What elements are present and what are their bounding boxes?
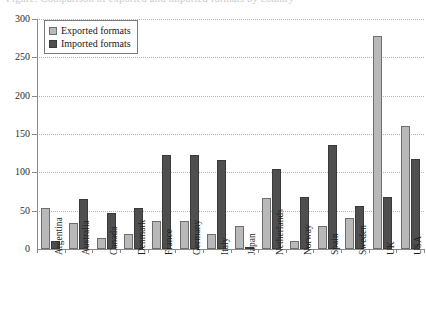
x-label-japan: Japan [248, 233, 258, 255]
bar-italy-exported [207, 234, 216, 249]
x-tick-mark-12 [369, 249, 370, 253]
legend-label-imported: Imported formats [61, 38, 131, 49]
legend-label-exported: Exported formats [61, 25, 131, 36]
bar-usa-exported [401, 126, 410, 249]
bar-japan-exported [235, 226, 244, 249]
y-tick-label-200: 200 [0, 91, 30, 101]
y-tick-mark-250 [32, 57, 37, 58]
x-tick-mark-1 [65, 249, 66, 253]
bar-germany-exported [180, 221, 189, 249]
bar-argentina-exported [41, 208, 50, 249]
y-axis-tick-labels: 050100150200250300 [0, 0, 30, 332]
x-label-argentina: Argentina [55, 217, 65, 255]
x-label-germany: Germany [193, 220, 203, 255]
x-tick-mark-0 [37, 249, 38, 253]
bar-uk-exported [373, 36, 382, 249]
x-tick-mark-3 [120, 249, 121, 253]
x-label-denmark: Denmark [138, 220, 148, 255]
y-tick-label-50: 50 [0, 206, 30, 216]
bar-australia-exported [69, 223, 78, 249]
y-tick-label-100: 100 [0, 167, 30, 177]
gridline-250 [37, 57, 424, 58]
gridline-100 [37, 172, 424, 173]
y-tick-label-300: 300 [0, 14, 30, 24]
x-tick-mark-5 [175, 249, 176, 253]
x-label-spain: Spain [331, 233, 341, 255]
x-label-sweden: Sweden [359, 225, 369, 255]
gridline-150 [37, 134, 424, 135]
y-tick-mark-300 [32, 19, 37, 20]
legend-item-exported: Exported formats [49, 24, 131, 37]
x-label-italy: Italy [221, 238, 231, 255]
bar-spain-exported [318, 226, 327, 249]
x-tick-mark-2 [92, 249, 93, 253]
x-tick-mark-6 [203, 249, 204, 253]
x-tick-mark-10 [313, 249, 314, 253]
bar-denmark-exported [124, 234, 133, 249]
chart-legend: Exported formatsImported formats [44, 20, 138, 54]
y-tick-mark-100 [32, 172, 37, 173]
x-tick-mark-11 [341, 249, 342, 253]
y-tick-mark-150 [32, 134, 37, 135]
bar-canada-exported [97, 238, 106, 250]
x-label-uk: UK [387, 241, 397, 255]
x-tick-mark-14 [424, 249, 425, 253]
legend-item-imported: Imported formats [49, 37, 131, 50]
y-tick-mark-200 [32, 96, 37, 97]
x-label-canada: Canada [110, 227, 120, 256]
y-tick-mark-50 [32, 211, 37, 212]
y-axis-line [37, 19, 38, 249]
bar-norway-exported [290, 241, 299, 249]
x-label-netherlands: Netherlands [276, 209, 286, 255]
y-tick-label-0: 0 [0, 244, 30, 254]
x-tick-mark-8 [258, 249, 259, 253]
x-tick-mark-9 [286, 249, 287, 253]
x-tick-mark-7 [231, 249, 232, 253]
bar-sweden-exported [345, 218, 354, 249]
x-label-usa: USA [414, 236, 424, 255]
y-tick-label-150: 150 [0, 129, 30, 139]
x-label-france: France [165, 229, 175, 255]
gridline-200 [37, 96, 424, 97]
x-label-australia: Australia [82, 220, 92, 255]
bar-france-exported [152, 221, 161, 249]
x-tick-mark-4 [148, 249, 149, 253]
bar-italy-imported [217, 160, 226, 249]
x-label-norway: Norway [304, 224, 314, 255]
legend-swatch-imported-icon [49, 40, 57, 48]
legend-swatch-exported-icon [49, 27, 57, 35]
bar-netherlands-exported [262, 198, 271, 249]
bar-chart: 050100150200250300 ArgentinaAustraliaCan… [0, 0, 426, 332]
y-tick-label-250: 250 [0, 52, 30, 62]
gridline-50 [37, 211, 424, 212]
